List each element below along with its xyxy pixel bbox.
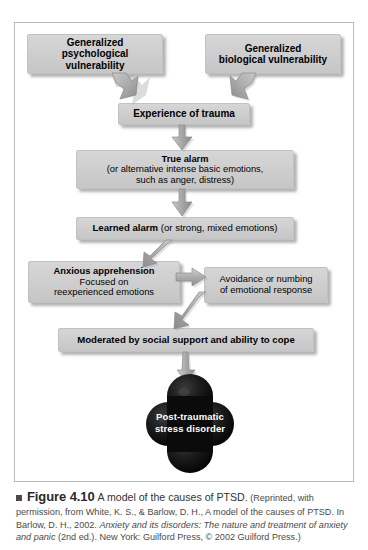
node-label-bold: Learned alarm: [92, 222, 158, 233]
arrow-trauma-to-true-alarm: [168, 125, 198, 152]
arrow-bio-vuln-to-trauma: [212, 72, 260, 106]
figure-page: Generalized psychological vulnerability …: [0, 0, 368, 550]
node-avoidance-or-numbing: Avoidance or numbing of emotional respon…: [204, 267, 328, 303]
square-bullet-icon: [16, 495, 22, 501]
caption-figure-number: Figure 4.10: [27, 489, 95, 504]
node-learned-alarm: Learned alarm (or strong, mixed emotions…: [76, 217, 294, 240]
node-label-line3: reexperienced emotions: [53, 287, 154, 298]
node-label-line2: psychological vulnerability: [32, 48, 158, 70]
node-experience-of-trauma: Experience of trauma: [118, 103, 250, 125]
node-label-line2: (or alternative intense basic emotions,: [107, 164, 264, 174]
node-label-line3: such as anger, distress): [107, 175, 264, 185]
node-generalized-psychological-vulnerability: Generalized psychological vulnerability: [27, 34, 163, 74]
caption-credit-line4b: (2nd ed.). New York: Guilford Press, © 2…: [55, 532, 300, 542]
node-label-line1: Generalized: [32, 37, 158, 48]
node-label-line1: Experience of trauma: [133, 108, 235, 119]
node-label-line1: Generalized: [219, 43, 327, 54]
node-label-line2: of emotional response: [219, 285, 312, 296]
arrow-anxious-apprehension-to-avoidance: [176, 268, 210, 294]
node-label-rest: (or strong, mixed emotions): [158, 222, 277, 233]
caption-title: A model of the causes of PTSD.: [98, 491, 248, 503]
caption-credit-line1: (Reprinted,: [250, 493, 295, 503]
node-label-line1: Moderated by social support and ability …: [77, 335, 295, 346]
node-ptsd-cloverleaf: Post-traumatic stress disorder: [146, 372, 234, 476]
node-label-line2: biological vulnerability: [219, 54, 327, 65]
arrow-true-alarm-to-learned-alarm: [168, 189, 198, 218]
node-generalized-biological-vulnerability: Generalized biological vulnerability: [205, 34, 341, 74]
caption-credit-line3b: Anxiety and its disorders: The nature an…: [99, 520, 306, 530]
node-true-alarm: True alarm (or alternative intense basic…: [76, 150, 294, 189]
arrow-learned-alarm-to-anxious-apprehension: [140, 240, 180, 270]
node-label-line1: True alarm: [107, 154, 264, 164]
figure-caption: Figure 4.10 A model of the causes of PTS…: [16, 488, 356, 544]
arrow-avoidance-to-moderated: [172, 292, 216, 332]
arrow-psych-vuln-to-trauma: [108, 72, 156, 106]
